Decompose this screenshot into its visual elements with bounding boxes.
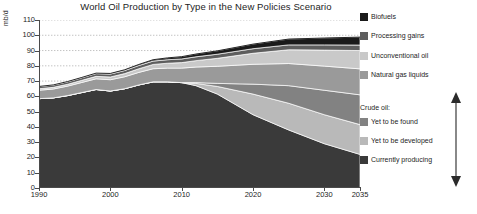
legend-swatch-icon (360, 32, 368, 40)
legend-swatch-icon (360, 118, 368, 126)
legend-primary-item[interactable]: Natural gas liquids (360, 71, 472, 80)
legend-primary-label: Natural gas liquids (371, 71, 429, 79)
x-axis-tick-mark (253, 187, 254, 191)
legend-crude-oil-label: Yet to be found (371, 118, 418, 126)
legend-primary-item[interactable]: Biofuels (360, 12, 472, 21)
legend-swatch-icon (360, 71, 368, 79)
legend-swatch-icon (360, 137, 368, 145)
x-axis-tick-2010: 2010 (162, 190, 202, 199)
x-axis-tick-2020: 2020 (233, 190, 273, 199)
legend-primary-label: Biofuels (371, 13, 396, 21)
x-axis-tick-mark (110, 187, 111, 191)
legend-crude-oil-label: Currently producing (371, 156, 432, 164)
legend-swatch-icon (360, 13, 368, 21)
legend-crude-oil-label: Yet to be developed (371, 137, 433, 145)
x-axis-tick-mark (182, 187, 183, 191)
legend-swatch-icon (360, 156, 368, 164)
x-axis-tick-1990: 1990 (19, 190, 59, 199)
x-axis-tick-2035: 2035 (340, 190, 380, 199)
chart-root: World Oil Production by Type in the New … (0, 0, 477, 214)
x-axis-tick-2030: 2030 (304, 190, 344, 199)
legend-swatch-icon (360, 52, 368, 60)
legend-primary: BiofuelsProcessing gainsUnconventional o… (360, 12, 472, 90)
legend-primary-label: Processing gains (371, 32, 424, 40)
legend-primary-item[interactable]: Unconventional oil (360, 51, 472, 60)
vertical-double-arrow-annotation (449, 92, 463, 191)
x-axis-tick-2000: 2000 (90, 190, 130, 199)
legend-primary-label: Unconventional oil (371, 52, 428, 60)
legend-primary-item[interactable]: Processing gains (360, 32, 472, 41)
x-axis-tick-mark (39, 187, 40, 191)
x-axis-tick-mark (360, 187, 361, 191)
x-axis-tick-mark (324, 187, 325, 191)
